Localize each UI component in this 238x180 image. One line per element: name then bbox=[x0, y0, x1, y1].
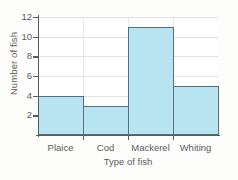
bar-whiting[interactable] bbox=[173, 86, 219, 135]
y-tick-mark bbox=[33, 56, 38, 57]
y-tick-mark bbox=[33, 17, 38, 18]
bar-mackerel[interactable] bbox=[128, 27, 174, 135]
x-tick-label-mackerel: Mackerel bbox=[128, 142, 173, 153]
bar-plaice[interactable] bbox=[38, 96, 84, 135]
y-axis-line bbox=[38, 15, 39, 137]
y-tick-mark bbox=[33, 96, 38, 97]
y-tick-mark bbox=[33, 37, 38, 38]
x-tick-mark bbox=[83, 135, 84, 140]
y-tick-mark bbox=[33, 76, 38, 77]
bar-cod[interactable] bbox=[83, 106, 129, 136]
x-tick-label-cod: Cod bbox=[83, 142, 128, 153]
x-axis-title: Type of fish bbox=[38, 156, 218, 167]
y-axis-title: Number of fish bbox=[8, 4, 19, 124]
x-tick-label-whiting: Whiting bbox=[173, 142, 218, 153]
y-tick-mark bbox=[33, 115, 38, 116]
x-tick-mark bbox=[128, 135, 129, 140]
plot-area bbox=[38, 17, 218, 135]
bar-chart-figure: 24681012 PlaiceCodMackerelWhiting Number… bbox=[0, 0, 238, 180]
x-tick-mark bbox=[173, 135, 174, 140]
x-tick-label-plaice: Plaice bbox=[38, 142, 83, 153]
